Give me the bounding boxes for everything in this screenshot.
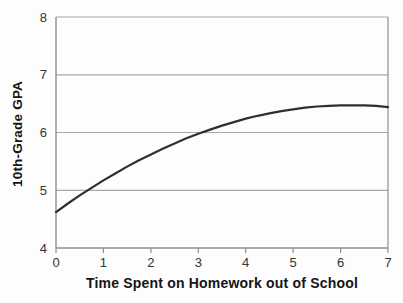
y-tick-label-6: 6 — [40, 125, 47, 140]
gpa-curve — [56, 105, 388, 212]
x-tick-label-5: 5 — [289, 255, 296, 270]
x-tick-label-7: 7 — [384, 255, 391, 270]
y-tick-label-8: 8 — [40, 10, 47, 25]
y-tick-label-5: 5 — [40, 183, 47, 198]
y-tick-label-7: 7 — [40, 67, 47, 82]
x-tick-label-1: 1 — [100, 255, 107, 270]
x-tick-label-4: 4 — [242, 255, 249, 270]
gpa-homework-chart: 0123456745678 10th-Grade GPA Time Spent … — [0, 0, 403, 303]
x-tick-label-2: 2 — [147, 255, 154, 270]
x-tick-label-0: 0 — [52, 255, 59, 270]
plot-area: 0123456745678 — [0, 0, 403, 303]
x-tick-label-3: 3 — [195, 255, 202, 270]
x-tick-label-6: 6 — [337, 255, 344, 270]
y-axis-title: 10th-Grade GPA — [10, 81, 25, 187]
y-tick-label-4: 4 — [40, 241, 47, 256]
x-axis-title: Time Spent on Homework out of School — [86, 275, 358, 291]
